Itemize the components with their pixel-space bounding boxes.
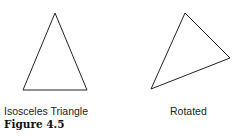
rotated-triangle-shape xyxy=(151,13,230,89)
figure: Isosceles Triangle Rotated Figure 4.5 xyxy=(0,0,240,136)
rotated-triangle-label: Rotated xyxy=(170,105,207,117)
isosceles-triangle-label: Isosceles Triangle xyxy=(4,105,88,117)
isosceles-triangle-shape xyxy=(23,13,87,90)
figure-caption: Figure 4.5 xyxy=(4,118,65,130)
